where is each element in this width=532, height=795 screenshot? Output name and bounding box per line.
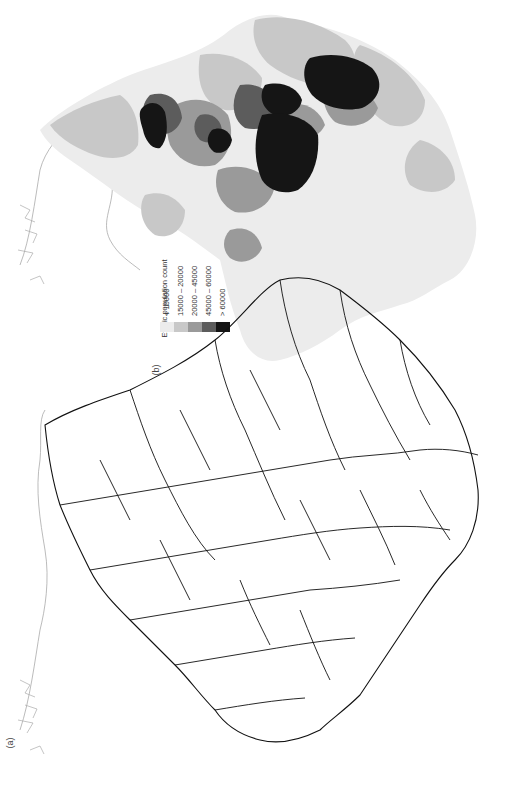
panel-label-a: (a) xyxy=(5,738,15,749)
coastline-islands xyxy=(18,680,44,754)
outline-map-panel xyxy=(0,260,532,795)
outline-map xyxy=(0,260,532,795)
region-boundary-outer xyxy=(45,278,478,742)
internal-boundaries xyxy=(60,280,478,710)
